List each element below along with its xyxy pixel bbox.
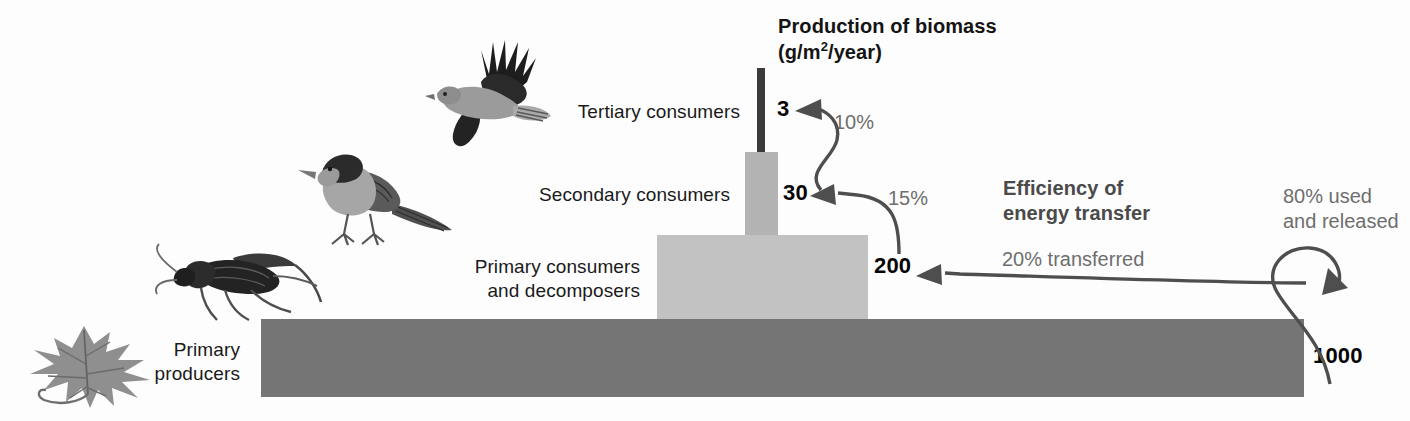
transfer-label-10-percent: 10% [834,110,874,135]
leaf-illustration [14,318,160,416]
efficiency-heading: Efficiency of energy transfer [1003,176,1150,226]
units-base: (g/m [778,41,821,63]
bar-primary-producers [261,319,1304,397]
transfer-label-80-percent: 80% used and released [1283,184,1399,234]
bar-secondary-consumers [745,152,778,235]
bar-primary-consumers [657,235,868,320]
value-primary-producers: 1000 [1313,344,1363,368]
units-exponent: 2 [821,39,828,54]
chart-title: Production of biomass [778,14,997,39]
arrow-10-percent [795,99,838,190]
value-primary-consumers: 200 [874,254,911,278]
value-secondary-consumers: 30 [783,181,808,205]
units-tail: /year) [828,41,882,63]
hawk-illustration [385,22,575,150]
label-primary-consumers: Primary consumers and decomposers [395,255,640,303]
label-secondary-consumers: Secondary consumers [455,183,730,207]
chart-units: (g/m2/year) [778,40,882,65]
transfer-label-15-percent: 15% [888,186,928,211]
transfer-label-20-percent: 20% transferred [1002,247,1144,272]
cricket-illustration [155,232,337,328]
value-tertiary-consumers: 3 [777,97,789,121]
energy-pyramid-diagram: Production of biomass (g/m2/year) Tertia… [0,0,1410,421]
bar-tertiary-consumers [757,68,765,152]
